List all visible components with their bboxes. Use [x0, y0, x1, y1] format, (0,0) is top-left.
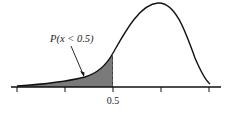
density-curve — [17, 3, 210, 86]
probability-annotation: P(x < 0.5) — [49, 33, 94, 45]
x-axis-ticks — [17, 87, 209, 92]
density-diagram: 0.5 P(x < 0.5) — [0, 0, 233, 115]
annotation-arrow-icon — [71, 46, 85, 77]
tick-label-0-5: 0.5 — [107, 95, 120, 106]
